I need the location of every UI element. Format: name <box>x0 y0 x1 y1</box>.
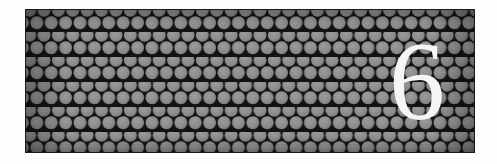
banner-root: 6 <box>0 0 497 164</box>
circle-lattice-pattern <box>26 10 474 152</box>
patterned-banner: 6 <box>26 10 474 152</box>
